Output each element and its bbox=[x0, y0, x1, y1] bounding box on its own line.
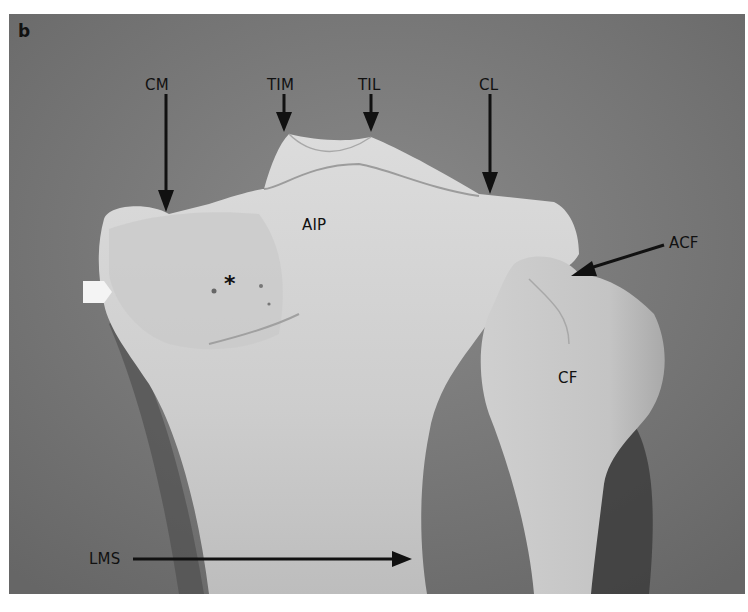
foramen bbox=[259, 284, 263, 288]
label-aip: AIP bbox=[302, 216, 326, 234]
label-tim: TIM bbox=[267, 76, 294, 94]
label-acf: ACF bbox=[669, 234, 699, 252]
label-cl: CL bbox=[479, 76, 498, 94]
asterisk-marker: * bbox=[224, 271, 236, 296]
foramen bbox=[267, 302, 270, 305]
label-til: TIL bbox=[358, 76, 381, 94]
label-cf: CF bbox=[558, 369, 578, 387]
photo-canvas bbox=[9, 14, 745, 594]
foramen bbox=[212, 289, 217, 294]
panel-label: b bbox=[18, 21, 30, 41]
label-cm: CM bbox=[145, 76, 169, 94]
bone-photograph: b CM TIM TIL CL AIP ACF CF LMS * bbox=[9, 14, 745, 594]
label-lms: LMS bbox=[89, 550, 120, 568]
